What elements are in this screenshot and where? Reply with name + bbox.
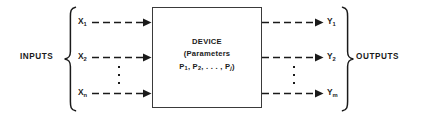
input-signal-label-x1: X1 [78, 17, 87, 26]
right-curly-brace-icon [341, 6, 355, 112]
device-title: DEVICE [152, 36, 262, 48]
outputs-group-label: OUTPUTS [356, 53, 399, 61]
output-arrow-y1 [262, 18, 324, 27]
output-arrow-y2 [262, 53, 324, 62]
input-signal-label-x2: X2 [78, 52, 87, 61]
input-arrow-x1 [92, 18, 152, 27]
input-arrow-xn [92, 89, 152, 98]
device-box-text: DEVICE (Parameters P1, P2, . . . , Pj) [152, 36, 262, 73]
output-arrow-ym [262, 89, 324, 98]
device-parameters-line: P1, P2, . . . , Pj) [152, 61, 262, 73]
left-curly-brace-icon [63, 6, 77, 112]
input-vertical-ellipsis-icon [118, 66, 121, 89]
input-arrow-x2 [92, 53, 152, 62]
output-signal-label-y2: Y2 [327, 52, 336, 61]
input-signal-label-xn: Xn [78, 88, 87, 97]
inputs-group-label: INPUTS [20, 53, 53, 61]
device-block-diagram: INPUTS X1 X2 Xn DEVICE (Parameters [0, 0, 421, 118]
output-vertical-ellipsis-icon [293, 66, 296, 89]
output-signal-label-y1: Y1 [327, 17, 336, 26]
output-signal-label-ym: Ym [327, 88, 338, 97]
device-subtitle: (Parameters [152, 48, 262, 60]
